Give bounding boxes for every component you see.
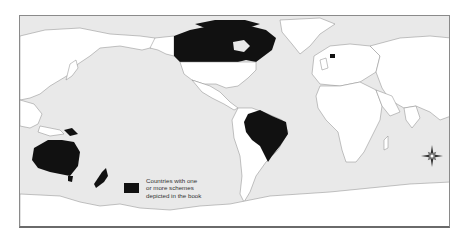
canada: [174, 24, 276, 62]
legend-swatch: [124, 183, 139, 193]
canada-islands: [195, 20, 260, 28]
usa: [180, 62, 256, 88]
new-zealand: [94, 168, 108, 188]
compass-rose-icon: [421, 145, 443, 167]
legend-line-3: depicted in the book: [146, 192, 201, 199]
map-legend: Countries with one or more schemes depic…: [124, 177, 264, 217]
netherlands: [330, 54, 335, 58]
madagascar: [384, 136, 388, 150]
tasmania: [68, 176, 73, 182]
africa: [316, 82, 382, 162]
legend-label: Countries with one or more schemes depic…: [146, 177, 201, 199]
legend-line-1: Countries with one: [146, 177, 201, 184]
east-asia-left: [20, 28, 158, 100]
legend-line-2: or more schemes: [146, 184, 201, 191]
australia: [32, 140, 80, 176]
southeast-asia-left: [20, 100, 64, 136]
papua-new-guinea: [64, 128, 78, 136]
